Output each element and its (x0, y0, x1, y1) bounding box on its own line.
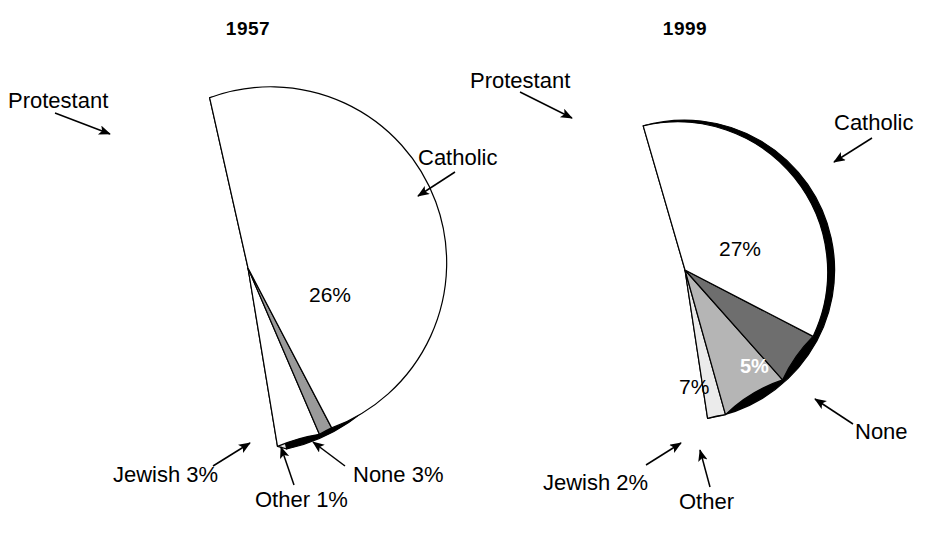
right-chart-title: 1999 (635, 18, 735, 40)
left-chart-title: 1957 (198, 18, 298, 40)
pie-chart-figure: 1957 66% 26% Protestant Catholic Jewish … (0, 0, 929, 537)
arrow-right-other (700, 450, 710, 487)
right-catholic-percent: 27% (719, 237, 761, 261)
left-label-jewish: Jewish 3% (113, 462, 218, 488)
right-label-protestant: Protestant (470, 68, 570, 94)
slice-catholic-1957 (210, 87, 447, 428)
left-protestant-percent: 66% (160, 206, 200, 229)
left-pie-graphic (72, 92, 426, 448)
left-catholic-percent: 26% (309, 283, 351, 307)
right-protestant-percent: 59% (597, 206, 637, 229)
arrow-left-other (281, 447, 294, 485)
left-label-protestant: Protestant (8, 88, 108, 114)
right-label-catholic: Catholic (834, 110, 913, 136)
right-label-none: None (855, 419, 908, 445)
right-label-other: Other (679, 489, 734, 515)
left-label-other: Other 1% (255, 487, 348, 513)
right-other-percent: 7% (679, 375, 709, 399)
arrow-right-catholic (834, 138, 872, 162)
arrow-right-protestant (520, 92, 572, 118)
arrow-right-jewish (646, 443, 681, 465)
left-label-none: None 3% (353, 462, 444, 488)
left-label-catholic: Catholic (418, 145, 497, 171)
right-none-percent: 5% (740, 355, 769, 378)
right-label-jewish: Jewish 2% (543, 470, 648, 496)
